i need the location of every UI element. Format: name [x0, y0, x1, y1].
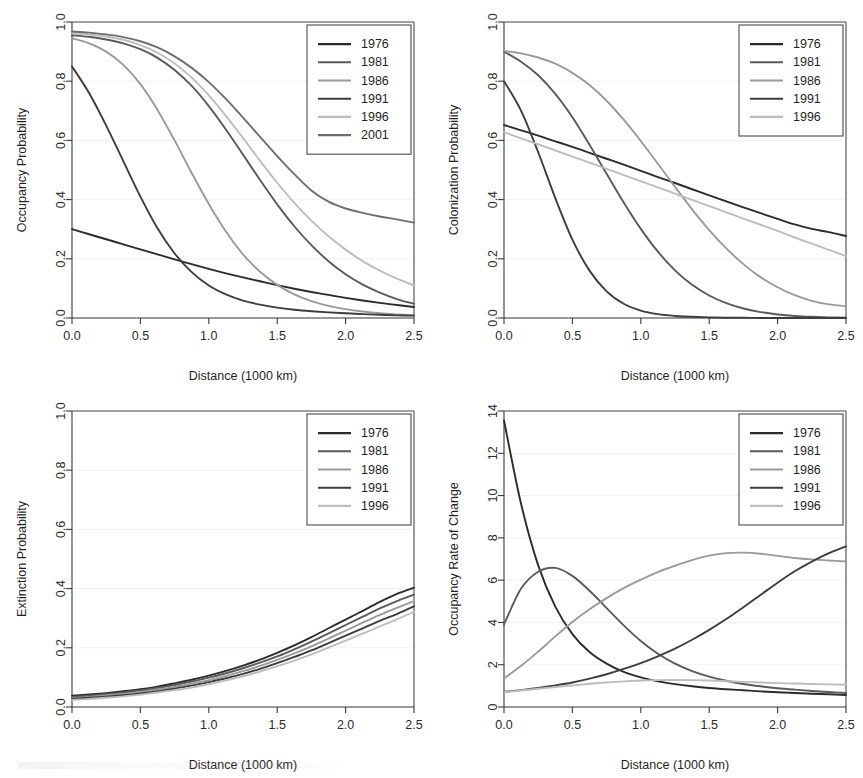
legend-label-1981: 1981	[793, 444, 821, 458]
y-axis-title: Occupancy Probability	[15, 107, 29, 232]
legend-label-1976: 1976	[361, 37, 389, 51]
scan-artifact	[18, 762, 348, 769]
x-tick-label: 1.0	[632, 329, 649, 343]
panel-extinction-probability: 0.00.20.40.60.81.00.00.51.01.52.02.5Dist…	[0, 389, 431, 778]
curve-1991	[72, 606, 414, 699]
curve-1996	[72, 612, 414, 700]
x-tick-label: 1.5	[701, 718, 718, 732]
legend-label-1976: 1976	[793, 426, 821, 440]
x-tick-label: 0.5	[564, 718, 581, 732]
panel-colonization-probability: 0.00.20.40.60.81.00.00.51.01.52.02.5Dist…	[432, 0, 863, 389]
legend-label-1991: 1991	[793, 481, 821, 495]
y-tick-label: 0.6	[54, 521, 68, 538]
x-tick-label: 2.0	[337, 329, 354, 343]
legend-label-1991: 1991	[793, 92, 821, 106]
x-axis-title: Distance (1000 km)	[189, 369, 297, 383]
y-tick-label: 0.8	[54, 72, 68, 89]
legend: 19761981198619911996	[307, 414, 411, 525]
y-tick-label: 1.0	[486, 13, 500, 30]
x-tick-label: 2.5	[405, 718, 422, 732]
legend-label-1991: 1991	[361, 481, 389, 495]
legend-label-1976: 1976	[793, 37, 821, 51]
curve-1976	[72, 229, 414, 307]
x-tick-label: 0.0	[495, 718, 512, 732]
figure-canvas: 0.00.20.40.60.81.00.00.51.01.52.02.5Dist…	[0, 0, 863, 778]
legend-label-1986: 1986	[361, 463, 389, 477]
y-tick-label: 0.2	[486, 250, 500, 267]
curve-1981	[504, 568, 846, 693]
x-tick-label: 1.0	[200, 329, 217, 343]
y-axis-title: Occupancy Rate of Change	[447, 482, 461, 636]
data-curves	[72, 588, 414, 700]
y-tick-label: 0.6	[486, 132, 500, 149]
y-tick-label: 2	[486, 661, 500, 668]
plot-top-right: 0.00.20.40.60.81.00.00.51.01.52.02.5Dist…	[432, 0, 863, 389]
y-axis-title: Extinction Probability	[15, 500, 29, 617]
plot-bottom-left: 0.00.20.40.60.81.00.00.51.01.52.02.5Dist…	[0, 389, 431, 778]
legend-label-1996: 1996	[361, 110, 389, 124]
y-tick-label: 0.0	[486, 309, 500, 326]
y-tick-label: 10	[486, 489, 500, 503]
x-axis-title: Distance (1000 km)	[621, 758, 729, 772]
y-tick-label: 6	[486, 577, 500, 584]
y-tick-label: 0.4	[54, 580, 68, 597]
plot-top-left: 0.00.20.40.60.81.00.00.51.01.52.02.5Dist…	[0, 0, 431, 389]
curve-1996	[504, 132, 846, 256]
legend-label-1976: 1976	[361, 426, 389, 440]
x-tick-label: 2.0	[769, 329, 786, 343]
legend-label-1996: 1996	[793, 499, 821, 513]
y-tick-label: 0.2	[54, 639, 68, 656]
y-tick-label: 0.4	[54, 191, 68, 208]
curve-1986	[72, 601, 414, 698]
legend-label-1986: 1986	[793, 74, 821, 88]
x-tick-label: 0.0	[63, 329, 80, 343]
x-tick-label: 2.0	[337, 718, 354, 732]
y-tick-label: 0.8	[486, 72, 500, 89]
curve-1976	[504, 125, 846, 236]
y-tick-label: 0.4	[486, 191, 500, 208]
x-tick-label: 0.0	[495, 329, 512, 343]
legend: 19761981198619911996	[739, 414, 843, 525]
y-tick-label: 0.0	[54, 698, 68, 715]
x-tick-label: 0.0	[63, 718, 80, 732]
x-tick-label: 0.5	[132, 718, 149, 732]
legend-label-1981: 1981	[361, 55, 389, 69]
y-tick-label: 12	[486, 446, 500, 460]
y-tick-label: 1.0	[54, 13, 68, 30]
legend: 19761981198619911996	[739, 25, 843, 136]
plot-bottom-right: 024681012140.00.51.01.52.02.5Distance (1…	[432, 389, 863, 778]
legend: 197619811986199119962001	[307, 25, 411, 154]
y-tick-label: 0.8	[54, 461, 68, 478]
y-tick-label: 4	[486, 619, 500, 626]
x-tick-label: 1.5	[701, 329, 718, 343]
x-axis-title: Distance (1000 km)	[621, 369, 729, 383]
legend-label-1981: 1981	[361, 444, 389, 458]
x-tick-label: 1.0	[632, 718, 649, 732]
y-axis-title: Colonization Probability	[447, 104, 461, 235]
legend-label-1986: 1986	[793, 463, 821, 477]
x-tick-label: 1.5	[269, 718, 286, 732]
x-tick-label: 2.5	[405, 329, 422, 343]
y-tick-label: 14	[486, 404, 500, 418]
legend-label-1981: 1981	[793, 55, 821, 69]
x-tick-label: 2.5	[837, 718, 854, 732]
panel-occupancy-probability: 0.00.20.40.60.81.00.00.51.01.52.02.5Dist…	[0, 0, 431, 389]
y-tick-label: 0	[486, 703, 500, 710]
x-tick-label: 0.5	[132, 329, 149, 343]
legend-label-1991: 1991	[361, 92, 389, 106]
y-tick-label: 8	[486, 534, 500, 541]
legend-label-1996: 1996	[361, 499, 389, 513]
legend-label-1986: 1986	[361, 74, 389, 88]
panel-occupancy-rate-of-change: 024681012140.00.51.01.52.02.5Distance (1…	[432, 389, 863, 778]
x-tick-label: 2.0	[769, 718, 786, 732]
y-tick-label: 0.0	[54, 309, 68, 326]
legend-label-2001: 2001	[361, 128, 389, 142]
y-tick-label: 0.2	[54, 250, 68, 267]
x-tick-label: 1.0	[200, 718, 217, 732]
x-tick-label: 2.5	[837, 329, 854, 343]
y-tick-label: 1.0	[54, 402, 68, 419]
y-tick-label: 0.6	[54, 132, 68, 149]
curve-1976	[72, 588, 414, 696]
x-tick-label: 1.5	[269, 329, 286, 343]
x-tick-label: 0.5	[564, 329, 581, 343]
